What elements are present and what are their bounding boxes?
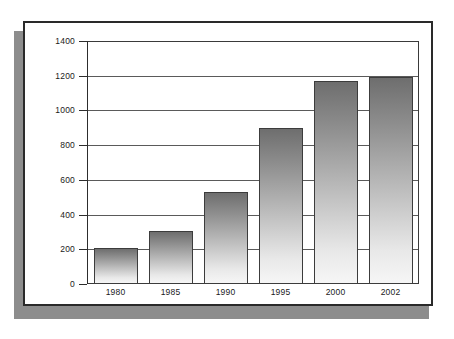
bar-chart: 0200400600800100012001400 19801985199019…	[25, 23, 431, 304]
y-axis-tick	[79, 41, 87, 42]
y-axis-tick-label: 800	[60, 140, 75, 150]
y-axis-tick	[79, 145, 87, 146]
x-axis-tick-label: 2002	[363, 287, 418, 297]
bar-series	[88, 42, 418, 284]
y-axis-tick	[79, 110, 87, 111]
bar	[149, 231, 193, 284]
bar	[369, 77, 413, 284]
x-axis-tick-label: 1980	[88, 287, 143, 297]
y-axis-tick-label: 1400	[55, 36, 75, 46]
chart-card: 0200400600800100012001400 19801985199019…	[23, 21, 433, 306]
y-axis-tick-label: 0	[70, 279, 75, 289]
x-axis-tick-label: 2000	[308, 287, 363, 297]
y-axis-tick	[79, 249, 87, 250]
bar	[259, 128, 303, 284]
y-axis-tick-label: 200	[60, 244, 75, 254]
slide-root: 0200400600800100012001400 19801985199019…	[0, 0, 454, 339]
y-axis-tick-label: 600	[60, 175, 75, 185]
y-axis-tick	[79, 215, 87, 216]
y-axis-tick	[79, 76, 87, 77]
bar	[314, 81, 358, 284]
y-axis-tick	[79, 284, 87, 285]
y-axis-tick-label: 1000	[55, 105, 75, 115]
y-axis-tick	[79, 180, 87, 181]
x-axis-tick-label: 1995	[253, 287, 308, 297]
x-axis-tick-label: 1990	[198, 287, 253, 297]
bar	[204, 192, 248, 284]
y-axis-tick-label: 400	[60, 210, 75, 220]
bar	[94, 248, 138, 284]
x-axis-tick-label: 1985	[143, 287, 198, 297]
x-axis-labels: 198019851990199520002002	[88, 287, 418, 303]
y-axis-tick-label: 1200	[55, 71, 75, 81]
